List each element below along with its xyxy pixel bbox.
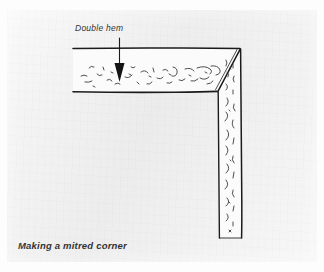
top-hem-fill: [73, 48, 240, 92]
scanned-paper-panel: Double hem Making a mitred corner: [7, 10, 317, 262]
figure-page: Double hem Making a mitred corner: [0, 0, 324, 272]
top-hem-band: [73, 48, 240, 92]
mitred-corner-illustration: Double hem Making a mitred corner: [7, 10, 317, 262]
figure-caption: Making a mitred corner: [18, 240, 128, 251]
top-hem-upper-edge: [73, 48, 240, 49]
annotation-label-double-hem: Double hem: [75, 23, 123, 33]
top-hem-lower-edge: [73, 91, 217, 92]
